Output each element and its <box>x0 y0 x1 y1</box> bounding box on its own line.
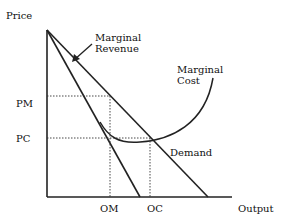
mr-label-line1: Marginal <box>95 32 141 43</box>
mc-label-line2: Cost <box>177 75 200 86</box>
demand-line <box>47 30 208 197</box>
marginal-cost-curve <box>100 78 213 142</box>
demand-label: Demand <box>170 147 212 158</box>
oc-label: OC <box>147 203 163 214</box>
y-axis-label: Price <box>6 10 32 21</box>
marginal-revenue-line <box>47 30 140 197</box>
mr-label-line2: Revenue <box>95 43 139 54</box>
x-axis-label: Output <box>238 203 274 214</box>
om-label: OM <box>100 203 118 214</box>
pm-label: PM <box>16 98 33 109</box>
mc-label-line1: Marginal <box>177 64 223 75</box>
pc-label: PC <box>16 133 30 144</box>
diagram-canvas <box>0 0 292 219</box>
